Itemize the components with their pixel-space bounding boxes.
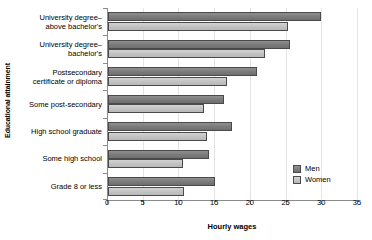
bar-men-4 — [108, 122, 232, 131]
bar-women-4 — [108, 132, 207, 141]
y-tick-label-0: University degree–above bachelor's — [14, 13, 102, 31]
x-tick-label-35: 35 — [353, 198, 361, 207]
bar-women-5 — [108, 159, 183, 168]
y-tick-label-4: High school graduate — [14, 127, 102, 136]
y-tick-mark-4 — [103, 118, 107, 119]
bar-women-6 — [108, 187, 184, 196]
legend-item-men: Men — [293, 163, 355, 174]
y-tick-mark-5 — [103, 145, 107, 146]
x-tick-label-5: 5 — [141, 198, 145, 207]
y-tick-label-line: Postsecondary — [52, 68, 102, 77]
y-tick-label-line: above bachelor's — [14, 22, 102, 31]
y-tick-mark-1 — [103, 35, 107, 36]
y-tick-label-line: certificate or diploma — [14, 77, 102, 86]
y-tick-mark-2 — [103, 63, 107, 64]
y-tick-label-line: Some post-secondary — [29, 100, 102, 109]
y-axis-title-label: Educational attainment — [4, 63, 11, 138]
gridline-35 — [357, 8, 358, 200]
legend-label-women: Women — [305, 175, 331, 184]
bar-women-1 — [108, 49, 265, 58]
y-tick-label-line: Grade 8 or less — [51, 182, 102, 191]
legend: Men Women — [293, 163, 355, 185]
y-tick-mark-0 — [103, 8, 107, 9]
y-tick-label-5: Some high school — [14, 154, 102, 163]
y-tick-label-2: Postsecondarycertificate or diploma — [14, 68, 102, 86]
legend-swatch-women-icon — [293, 176, 301, 184]
y-tick-label-line: Some high school — [42, 154, 102, 163]
x-tick-label-20: 20 — [246, 198, 254, 207]
x-tick-label-15: 15 — [210, 198, 218, 207]
bar-men-5 — [108, 150, 209, 159]
y-axis-title: Educational attainment — [0, 0, 14, 200]
bar-men-2 — [108, 67, 257, 76]
x-tick-label-30: 30 — [317, 198, 325, 207]
bar-women-2 — [108, 77, 227, 86]
bar-chart: Educational attainment University degree… — [0, 0, 372, 240]
bar-men-3 — [108, 95, 224, 104]
y-tick-label-3: Some post-secondary — [14, 100, 102, 109]
bar-men-0 — [108, 12, 321, 21]
y-tick-label-line: bachelor's — [14, 49, 102, 58]
gridline-15 — [214, 8, 215, 200]
y-tick-label-1: University degree–bachelor's — [14, 40, 102, 58]
bar-men-1 — [108, 40, 290, 49]
y-axis-tick-labels: University degree–above bachelor'sUniver… — [14, 8, 105, 200]
bar-women-0 — [108, 22, 288, 31]
legend-label-men: Men — [305, 164, 320, 173]
y-tick-label-line: University degree– — [39, 13, 102, 22]
gridline-25 — [286, 8, 287, 200]
legend-item-women: Women — [293, 174, 355, 185]
y-tick-label-line: University degree– — [39, 40, 102, 49]
x-tick-label-0: 0 — [105, 198, 109, 207]
legend-swatch-men-icon — [293, 165, 301, 173]
y-tick-mark-6 — [103, 173, 107, 174]
y-tick-label-6: Grade 8 or less — [14, 182, 102, 191]
bar-men-6 — [108, 177, 215, 186]
gridline-20 — [250, 8, 251, 200]
y-tick-label-line: High school graduate — [31, 127, 102, 136]
bar-women-3 — [108, 104, 204, 113]
y-tick-mark-3 — [103, 90, 107, 91]
x-tick-label-10: 10 — [174, 198, 182, 207]
x-tick-label-25: 25 — [281, 198, 289, 207]
x-axis-title: Hourly wages — [107, 222, 357, 231]
